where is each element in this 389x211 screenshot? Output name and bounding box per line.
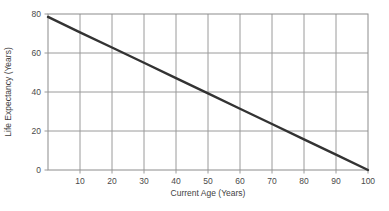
- tick-label: 20: [107, 176, 117, 186]
- tick-label: 100: [361, 176, 375, 186]
- tick-label: 40: [32, 87, 42, 97]
- tick-label: 80: [32, 9, 42, 19]
- tick-label: 70: [267, 176, 277, 186]
- tick-label: 0: [36, 165, 41, 175]
- x-axis-title: Current Age (Years): [171, 188, 246, 198]
- tick-label: 80: [299, 176, 309, 186]
- y-axis-title: Life Expectancy (Years): [3, 47, 13, 137]
- tick-label: 10: [75, 176, 85, 186]
- tick-label: 40: [171, 176, 181, 186]
- tick-label: 20: [32, 126, 42, 136]
- tick-label: 30: [139, 176, 149, 186]
- tick-label: 50: [203, 176, 213, 186]
- life-expectancy-line-chart: 102030405060708090100 020406080 Current …: [0, 0, 389, 211]
- tick-label: 60: [32, 48, 42, 58]
- chart-container: 102030405060708090100 020406080 Current …: [0, 0, 389, 211]
- tick-label: 90: [331, 176, 341, 186]
- tick-label: 60: [235, 176, 245, 186]
